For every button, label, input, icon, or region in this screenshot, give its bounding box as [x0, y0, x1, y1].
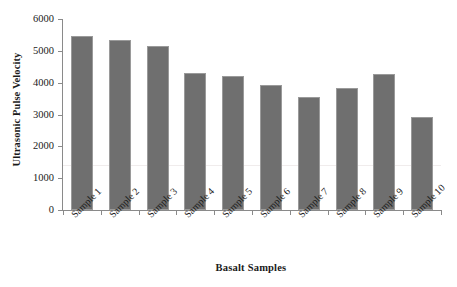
plot-area: 0100020003000400050006000: [62, 19, 441, 211]
y-axis-tick: 2000: [58, 146, 63, 147]
y-axis-tick-label: 0: [49, 204, 54, 215]
y-axis-tick: 5000: [58, 51, 63, 52]
bar: [71, 36, 93, 210]
x-axis-tick-labels: Sample 1Sample 2Sample 3Sample 4Sample 5…: [62, 212, 452, 260]
y-axis-tick-label: 1000: [33, 172, 54, 183]
y-axis-title-text: Ultrasonic Pulse Velocity: [12, 52, 23, 166]
x-axis-title: Basalt Samples: [62, 262, 440, 273]
y-axis-tick: 4000: [58, 83, 63, 84]
y-axis-tick-label: 6000: [33, 13, 54, 24]
y-axis-tick: 6000: [58, 19, 63, 20]
y-axis-tick-label: 5000: [33, 45, 54, 56]
y-axis-tick-label: 3000: [33, 109, 54, 120]
y-axis-tick-label: 2000: [33, 140, 54, 151]
y-axis-title: Ultrasonic Pulse Velocity: [6, 0, 28, 218]
y-axis-tick: 3000: [58, 115, 63, 116]
bar: [109, 40, 131, 210]
bar: [147, 46, 169, 210]
y-axis-tick-label: 4000: [33, 77, 54, 88]
y-axis-tick: 1000: [58, 178, 63, 179]
bar-chart-figure: Ultrasonic Pulse Velocity 01000200030004…: [0, 0, 457, 287]
